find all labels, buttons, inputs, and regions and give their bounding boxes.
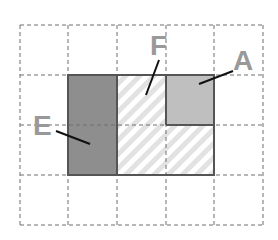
label-e: E [33,110,52,141]
region-f-upper [117,75,166,125]
label-a: A [233,45,253,76]
label-f: F [150,30,167,61]
region-a [166,75,214,125]
dashed-grid [20,25,263,225]
grid-diagram: F A E [0,0,278,240]
